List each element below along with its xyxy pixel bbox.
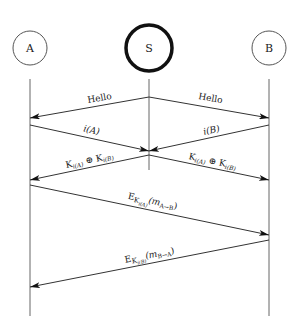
message-id-b: i(B) (149, 123, 269, 151)
arrow-line (30, 240, 269, 287)
id-arg: (B) (205, 123, 221, 136)
participant-s-label: S (145, 42, 153, 55)
message-id-a: i(A) (30, 123, 149, 151)
participant-a: A (13, 31, 47, 65)
message-hello-to-a: Hello (30, 91, 149, 118)
message-label: i(B) (202, 123, 221, 136)
message-key-to-b: Ki(A) ⊕ Ki(B) (149, 151, 269, 180)
message-var: (m (144, 249, 158, 261)
close-paren: ) (170, 245, 175, 255)
id-arg: (A) (85, 124, 101, 137)
message-encrypted-a-to-b: EKi(A)(mA→B) (30, 185, 269, 235)
message-encrypted-b-to-a: EKi(B)(mB→A) (30, 240, 269, 287)
message-label: Hello (87, 91, 113, 105)
sequence-diagram: A S B Hello Hello i(A) i(B) Ki(A) ⊕ Ki(B… (0, 0, 300, 332)
message-key-to-a: Ki(A) ⊕ Ki(B) (30, 150, 149, 180)
participant-s: S (126, 25, 172, 71)
message-label: Hello (198, 91, 224, 105)
arrow-line (30, 185, 269, 235)
participant-a-label: A (25, 42, 35, 55)
message-label: i(A) (83, 123, 102, 136)
key-sub-subscript: i(A) (138, 200, 148, 208)
participant-b-label: B (265, 42, 273, 55)
participant-b: B (252, 31, 286, 65)
key-subscript: i(B) (102, 154, 115, 163)
close-paren: ) (173, 201, 179, 212)
message-label: EKi(B)(mB→A) (124, 245, 176, 267)
message-hello-to-b: Hello (149, 91, 269, 118)
message-label: Ki(A) ⊕ Ki(B) (188, 151, 239, 172)
